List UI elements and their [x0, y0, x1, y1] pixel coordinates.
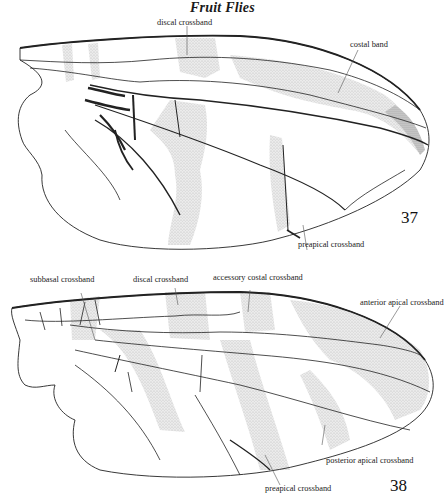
label-fig37-costal-band: costal band — [350, 40, 388, 49]
label-fig38-accessory-costal-crossband: accessory costal crossband — [213, 273, 303, 282]
wing-illustrations — [0, 0, 445, 494]
label-fig38-posterior-apical-crossband: posterior apical crossband — [326, 456, 413, 465]
label-fig38-preapical-crossband: preapical crossband — [265, 484, 331, 493]
figure-number-38: 38 — [390, 476, 407, 494]
label-fig38-discal-crossband: discal crossband — [133, 275, 188, 284]
label-fig37-preapical-crossband: preapical crossband — [298, 240, 364, 249]
label-fig37-discal-crossband: discal crossband — [157, 18, 212, 27]
figure-number-37: 37 — [401, 208, 418, 228]
wing-figure-37 — [18, 36, 429, 250]
label-fig38-anterior-apical-crossband: anterior apical crossband — [360, 298, 444, 307]
label-fig38-subbasal-crossband: subbasal crossband — [30, 275, 94, 284]
wing-figure-38 — [12, 292, 434, 477]
